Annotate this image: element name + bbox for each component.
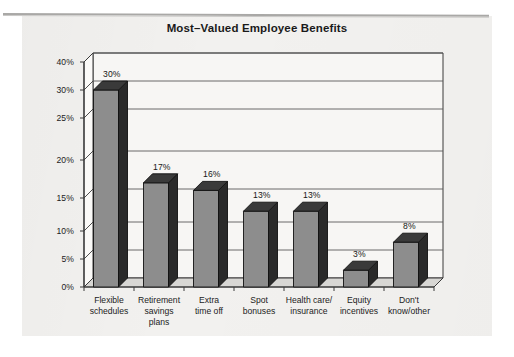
bar-value-label: 13% <box>303 190 321 200</box>
y-axis-tick-label: 25% <box>34 113 74 123</box>
bar-front-face <box>394 242 419 287</box>
bar-side-face <box>219 181 228 287</box>
y-axis-tick-label: 20% <box>34 155 74 165</box>
scanned-page: Most–Valued Employee Benefits 40%30%25%2… <box>0 0 514 357</box>
bar-column <box>144 174 178 287</box>
bar-column <box>344 261 378 287</box>
bar-side-face <box>169 174 178 287</box>
bar-front-face <box>194 190 219 287</box>
bar-column <box>94 81 128 287</box>
bar-front-face <box>294 211 319 287</box>
bar-front-face <box>344 270 369 287</box>
bar-value-label: 3% <box>353 249 366 259</box>
y-axis-tick-label: 0% <box>34 282 74 292</box>
bar-value-label: 8% <box>403 221 416 231</box>
x-axis-category-label: Don'tknow/other <box>378 295 440 317</box>
bar-front-face <box>144 183 169 287</box>
y-axis-tick-label: 30% <box>34 85 74 95</box>
bar-front-face <box>244 211 269 287</box>
y-axis-tick-label: 5% <box>34 254 74 264</box>
bar-side-face <box>119 81 128 287</box>
y-axis-tick-label: 40% <box>34 57 74 67</box>
bar-value-label: 13% <box>253 190 271 200</box>
bar-value-label: 17% <box>153 162 171 172</box>
bar-column <box>194 181 228 287</box>
bar-column <box>244 202 278 287</box>
bar-column <box>294 202 328 287</box>
bar-column <box>394 233 428 287</box>
x-axis-label-line: Don't <box>378 295 440 306</box>
bar-side-face <box>319 202 328 287</box>
y-axis-tick-label: 10% <box>34 226 74 236</box>
bar-front-face <box>94 90 119 287</box>
x-axis-label-line: plans <box>128 317 190 328</box>
bar-side-face <box>269 202 278 287</box>
bar-chart-plot: 40%30%25%20%15%10%5%0%30%17%16%13%13%3%8… <box>0 0 514 357</box>
bar-value-label: 16% <box>203 169 221 179</box>
y-axis-tick-label: 15% <box>34 193 74 203</box>
bar-value-label: 30% <box>103 69 121 79</box>
x-axis-label-line: know/other <box>378 306 440 317</box>
